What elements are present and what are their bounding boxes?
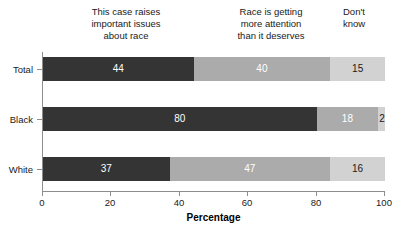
x-tick-label-40: 40: [174, 197, 185, 208]
bar-value-total-attention: 40: [194, 57, 331, 81]
bar-total: 44 40 15: [43, 57, 385, 81]
row-label-total: Total: [0, 64, 33, 75]
x-tick-60: [247, 192, 248, 196]
bar-black: 80 18 2: [43, 107, 385, 131]
x-tick-100: [384, 192, 385, 196]
bar-value-white-issues: 37: [43, 157, 170, 181]
x-tick-label-20: 20: [105, 197, 116, 208]
x-tick-80: [316, 192, 317, 196]
bar-value-black-dontknow: 2: [374, 107, 390, 131]
bar-white: 37 47 16: [43, 157, 385, 181]
bar-value-black-attention: 18: [317, 107, 379, 131]
x-axis-line: [42, 191, 385, 192]
row-tick-total: [37, 69, 42, 70]
bar-value-black-issues: 80: [43, 107, 317, 131]
x-tick-20: [110, 192, 111, 196]
stacked-bar-chart: · · · · · This case raises important iss…: [0, 0, 406, 229]
x-tick-label-100: 100: [376, 197, 392, 208]
x-tick-0: [42, 192, 43, 196]
row-label-white: White: [0, 164, 33, 175]
bar-value-total-issues: 44: [43, 57, 194, 81]
x-tick-40: [179, 192, 180, 196]
bar-value-total-dontknow: 15: [330, 57, 385, 81]
x-axis-title: Percentage: [42, 212, 385, 223]
x-tick-label-80: 80: [311, 197, 322, 208]
row-tick-black: [37, 119, 42, 120]
x-tick-label-0: 0: [39, 197, 44, 208]
row-label-black: Black: [0, 114, 33, 125]
bar-value-white-dontknow: 16: [330, 157, 385, 181]
bar-value-white-attention: 47: [170, 157, 331, 181]
plot-area: 0 20 40 60 80 100 Percentage Total 44 40…: [0, 0, 406, 229]
row-tick-white: [37, 169, 42, 170]
x-tick-label-60: 60: [242, 197, 253, 208]
